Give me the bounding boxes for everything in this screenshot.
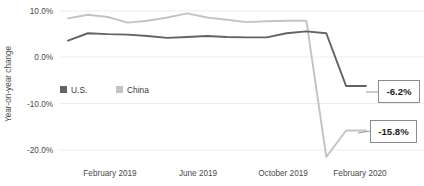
gridlines	[60, 11, 424, 150]
callout-china-value: -15.8%	[358, 121, 417, 143]
y-tick-label-0: 0.0%	[34, 53, 53, 62]
callout-label-us: -6.2%	[386, 86, 412, 97]
series-line-us	[68, 31, 366, 86]
callout-label-china: -15.8%	[378, 126, 409, 137]
callout-us-value: -6.2%	[366, 81, 420, 103]
line-chart: Year-on-year change 10.0% 0.0% -10.0% -2…	[0, 0, 424, 186]
x-tick-label-jun-2019: June 2019	[179, 169, 218, 178]
chart-container: Year-on-year change 10.0% 0.0% -10.0% -2…	[0, 0, 424, 186]
legend-label-us: U.S.	[71, 85, 87, 95]
y-axis-title: Year-on-year change	[4, 45, 13, 122]
chart-legend: U.S. China	[60, 85, 149, 95]
x-tick-label-feb-2020: February 2020	[333, 169, 387, 178]
x-axis-tick-labels: February 2019 June 2019 October 2019 Feb…	[83, 169, 387, 178]
legend-swatch-china	[116, 86, 123, 93]
y-tick-label-neg10: -10.0%	[27, 100, 53, 109]
x-tick-label-oct-2019: October 2019	[258, 169, 308, 178]
legend-swatch-us	[60, 86, 67, 93]
y-tick-label-neg20: -20.0%	[27, 146, 53, 155]
legend-label-china: China	[127, 85, 149, 95]
x-tick-label-feb-2019: February 2019	[83, 169, 137, 178]
y-tick-label-10: 10.0%	[30, 7, 53, 16]
y-axis-tick-labels: 10.0% 0.0% -10.0% -20.0%	[27, 7, 53, 155]
